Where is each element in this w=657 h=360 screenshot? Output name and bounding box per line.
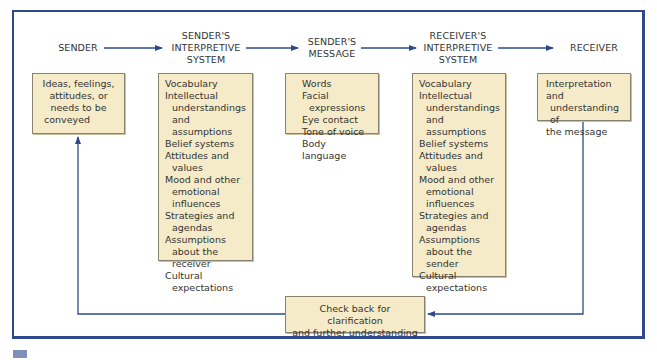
box-receiver-interpretive-system: Vocabulary Intellectual understandings a…: [412, 73, 506, 277]
heading-receiver-interpretive-system: RECEIVER'S INTERPRETIVE SYSTEM: [412, 30, 504, 66]
box-sender-message: Words Facial expressions Eye contact Ton…: [285, 73, 379, 134]
box-sender-ideas: Ideas, feelings, attitudes, or needs to …: [32, 73, 125, 134]
heading-sender-message: SENDER'S MESSAGE: [292, 36, 372, 60]
heading-sender-interpretive-system: SENDER'S INTERPRETIVE SYSTEM: [160, 30, 252, 66]
box-feedback-check-back: Check back for clarification and further…: [285, 296, 425, 333]
figure-marker-square: [13, 350, 27, 358]
box-receiver-interpretation: Interpretation and understanding of the …: [537, 73, 631, 121]
heading-receiver: RECEIVER: [556, 42, 632, 54]
heading-sender: SENDER: [40, 42, 116, 54]
box-sender-interpretive-system: Vocabulary Intellectual understandings a…: [158, 73, 253, 261]
